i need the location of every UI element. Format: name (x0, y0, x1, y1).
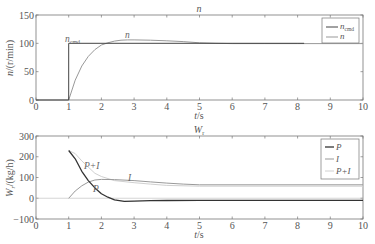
x-tick-label: 9 (328, 220, 333, 231)
bottom-x-ticks: 012345678910 (34, 136, 369, 231)
top-legend: ncmd n (322, 18, 359, 43)
x-tick-label: 7 (262, 101, 267, 112)
x-tick-label: 7 (262, 220, 267, 231)
x-tick-label: 6 (230, 101, 235, 112)
chart-figure: n 012345678910 050100150 ncmd n t/s n/(r… (0, 0, 375, 244)
series-i-line (69, 179, 363, 198)
top-x-axis-label: t/s (194, 110, 204, 121)
y-tick-label: 0 (29, 193, 34, 204)
x-tick-label: 3 (132, 220, 137, 231)
bottom-y-axis-label: Wr/(kg/h) (4, 159, 16, 197)
x-tick-label: 4 (164, 220, 169, 231)
bottom-x-axis-label: t/s (194, 229, 204, 240)
x-tick-label: 10 (358, 220, 368, 231)
top-plot-title: n (197, 3, 202, 14)
x-tick-label: 2 (99, 220, 104, 231)
x-tick-label: 8 (295, 220, 300, 231)
series-p-line (69, 151, 363, 202)
bottom-annotation-pi: P+I (83, 161, 100, 171)
bottom-plot-title: Wr (194, 124, 204, 136)
x-tick-label: 3 (132, 101, 137, 112)
x-tick-label: 0 (34, 220, 39, 231)
top-y-axis-label: n/(r/min) (4, 40, 16, 76)
top-annotation-n: n (125, 30, 130, 40)
bottom-legend: P I P+I (321, 139, 359, 179)
bottom-y-ticks: −1000100200300 (13, 131, 363, 225)
svg-text:P: P (335, 142, 342, 152)
top-annotation-ncmd: ncmd (65, 34, 80, 45)
bottom-plot-axes-box (36, 136, 363, 219)
y-tick-label: 50 (24, 66, 34, 77)
svg-text:P+I: P+I (335, 166, 352, 176)
x-tick-label: 1 (66, 220, 71, 231)
series-n-line (69, 40, 363, 100)
y-tick-label: 100 (19, 172, 34, 183)
y-tick-label: 0 (29, 95, 34, 106)
bottom-annotation-p: P (92, 184, 99, 194)
top-plot-axes-box (36, 15, 363, 100)
bottom-annotation-i: I (127, 173, 132, 183)
series-pplusi-line (69, 151, 363, 187)
svg-text:n: n (340, 31, 345, 41)
y-tick-label: 150 (19, 10, 34, 21)
top-y-ticks: 050100150 (19, 10, 363, 106)
x-tick-label: 10 (358, 101, 368, 112)
y-tick-label: 300 (19, 131, 34, 142)
series-n-cmd-line (36, 43, 304, 100)
x-tick-label: 9 (328, 101, 333, 112)
y-tick-label: −100 (13, 214, 34, 225)
x-tick-label: 4 (164, 101, 169, 112)
top-plot: n 012345678910 050100150 ncmd n t/s n/(r… (4, 3, 368, 121)
x-tick-label: 2 (99, 101, 104, 112)
top-series (36, 40, 363, 100)
x-tick-label: 1 (66, 101, 71, 112)
x-tick-label: 0 (34, 101, 39, 112)
x-tick-label: 8 (295, 101, 300, 112)
y-tick-label: 100 (19, 38, 34, 49)
y-tick-label: 200 (19, 151, 34, 162)
bottom-series (36, 151, 363, 202)
bottom-plot: Wr 012345678910 −1000100200300 P+I I P t… (4, 124, 368, 240)
x-tick-label: 6 (230, 220, 235, 231)
